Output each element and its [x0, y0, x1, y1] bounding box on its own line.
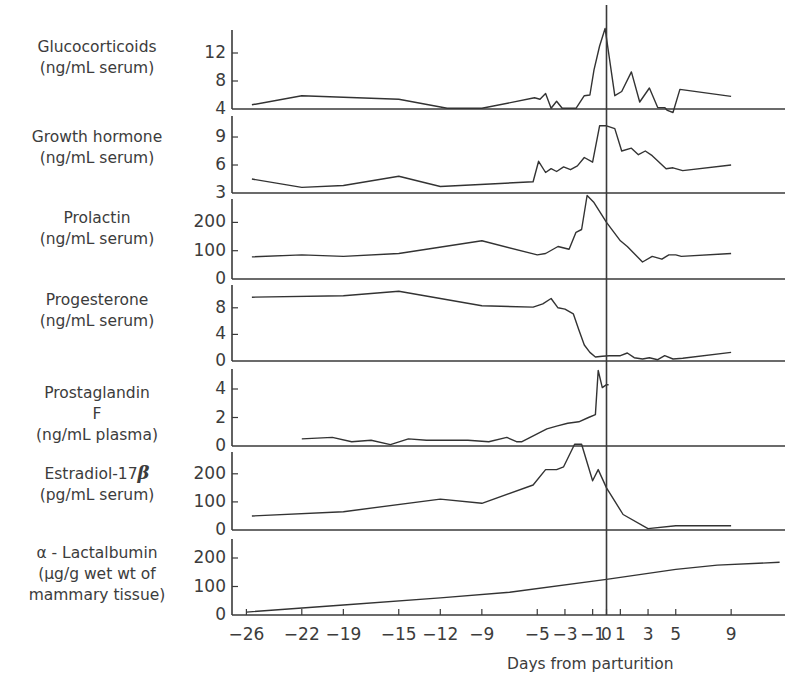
panel-label: Estradiol-17β(pg/mL serum) [0, 462, 197, 506]
panel-label: ProstaglandinF(ng/mL plasma) [0, 383, 197, 446]
panel-label: Glucocorticoids(ng/mL serum) [0, 37, 197, 79]
panel-label-line: (pg/mL serum) [0, 485, 197, 506]
x-tick-label: 5 [656, 626, 696, 643]
series-line-prostaglandin-f [302, 371, 609, 445]
panel-label: Prolactin(ng/mL serum) [0, 208, 197, 250]
panel-label-line: Progesterone [0, 290, 197, 311]
panel-label-line: (μg/g wet wt of [0, 564, 197, 585]
y-tick-label: 0 [186, 521, 226, 538]
y-tick-label: 4 [186, 100, 226, 117]
x-axis-title: Days from parturition [507, 655, 674, 673]
y-tick-label: 3 [186, 184, 226, 201]
panel-label-line: F [0, 404, 197, 425]
x-tick-label: −19 [323, 626, 363, 643]
series-line-progesterone [252, 291, 731, 360]
panel-label-line: mammary tissue) [0, 585, 197, 606]
x-tick-label: −22 [282, 626, 322, 643]
series-line-glucocorticoids [252, 29, 731, 113]
y-tick-label: 0 [186, 352, 226, 369]
beta-symbol: β [138, 462, 150, 483]
y-tick-label: 0 [186, 270, 226, 287]
panel-label-line: Prolactin [0, 208, 197, 229]
x-tick-label: −26 [226, 626, 266, 643]
panel-label-line: Estradiol-17β [0, 462, 197, 485]
series-line-growth-hormone [252, 126, 731, 188]
panel-label-line: Glucocorticoids [0, 37, 197, 58]
x-tick-label: −15 [379, 626, 419, 643]
panel-label: α - Lactalbumin(μg/g wet wt ofmammary ti… [0, 543, 197, 606]
panel-label: Growth hormone(ng/mL serum) [0, 127, 197, 169]
panel-label: Progesterone(ng/mL serum) [0, 290, 197, 332]
panel-label-line: (ng/mL serum) [0, 229, 197, 250]
y-tick-label: 0 [186, 606, 226, 623]
panel-label-line: α - Lactalbumin [0, 543, 197, 564]
panel-label-line: (ng/mL serum) [0, 311, 197, 332]
x-tick-label: 9 [711, 626, 751, 643]
panel-label-line: (ng/mL plasma) [0, 425, 197, 446]
series-line--lactalbumin [246, 562, 779, 612]
series-line-estradiol-17- [252, 444, 731, 528]
series-line-prolactin [252, 196, 731, 263]
panel-label-line: Prostaglandin [0, 383, 197, 404]
x-tick-label: −12 [420, 626, 460, 643]
panel-label-line: (ng/mL serum) [0, 148, 197, 169]
panel-label-line: Growth hormone [0, 127, 197, 148]
panel-label-line: (ng/mL serum) [0, 58, 197, 79]
x-tick-label: −9 [462, 626, 502, 643]
